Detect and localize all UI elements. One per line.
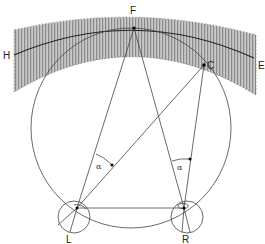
label-alpha-left: α <box>96 162 102 171</box>
label-C: C <box>207 60 214 71</box>
label-alpha-right: α <box>177 163 183 172</box>
label-E: E <box>258 60 265 71</box>
horopter-diagram: F H E C L R α α <box>0 0 265 244</box>
point-F <box>133 27 136 30</box>
point-L <box>76 207 79 210</box>
point-R <box>183 207 186 210</box>
arrow-left <box>111 164 114 167</box>
label-F: F <box>130 5 136 16</box>
label-L: L <box>66 234 72 244</box>
label-R: R <box>182 234 189 244</box>
angle-arc-right <box>172 159 190 161</box>
arrow-right <box>189 158 192 161</box>
point-C <box>202 63 206 67</box>
label-H: H <box>3 50 10 61</box>
